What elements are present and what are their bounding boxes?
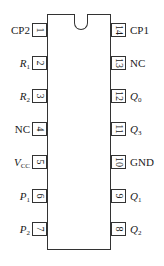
pin-3-label: R2 (20, 89, 30, 103)
pin-9: 9 (111, 189, 126, 203)
pin-5: 5 (32, 155, 47, 169)
pin-7-label: P2 (20, 222, 30, 236)
pin-number: 14 (114, 25, 124, 35)
pin-3: 3 (32, 89, 47, 103)
pin-7: 7 (32, 222, 47, 236)
pin-1: 1 (32, 23, 47, 37)
pin-number: 5 (35, 160, 45, 165)
pin-number: 8 (114, 227, 124, 232)
pin-number: 3 (35, 94, 45, 99)
ic-body (47, 14, 111, 250)
pin-2: 2 (32, 56, 47, 70)
pin-6-label: P1 (20, 189, 30, 203)
pin1-notch (74, 14, 88, 30)
pin-number: 9 (114, 194, 124, 199)
pin-number: 4 (35, 127, 45, 132)
pin-8: 8 (111, 222, 126, 236)
pin-5-label: VCC (14, 155, 30, 169)
pin-11: 11 (111, 122, 126, 136)
pin-8-label: Q2 (130, 222, 141, 236)
pin-number: 12 (114, 91, 124, 101)
pin-12: 12 (111, 89, 126, 103)
pin-9-label: Q1 (130, 189, 141, 203)
pin-10: 10 (111, 155, 126, 169)
pin-number: 11 (113, 124, 123, 134)
pin-number: 7 (35, 227, 45, 232)
pin-14: 14 (111, 23, 126, 37)
pin-2-label: R1 (20, 56, 30, 70)
pin-11-label: Q3 (130, 122, 141, 136)
pin-4: 4 (32, 122, 47, 136)
pin-6: 6 (32, 189, 47, 203)
pin-10-label: GND (130, 155, 154, 169)
pin-number: 1 (35, 28, 45, 33)
pin-13-label: NC (130, 56, 145, 70)
pin-13: 13 (111, 56, 126, 70)
pin-number: 13 (114, 58, 124, 68)
pin-4-label: NC (15, 122, 30, 136)
pin-1-label: CP2 (11, 23, 30, 37)
pin-number: 10 (114, 157, 124, 167)
pin-14-label: CP1 (130, 23, 149, 37)
pin-12-label: Q0 (130, 89, 141, 103)
pin-number: 6 (35, 194, 45, 199)
pin-number: 2 (35, 61, 45, 66)
